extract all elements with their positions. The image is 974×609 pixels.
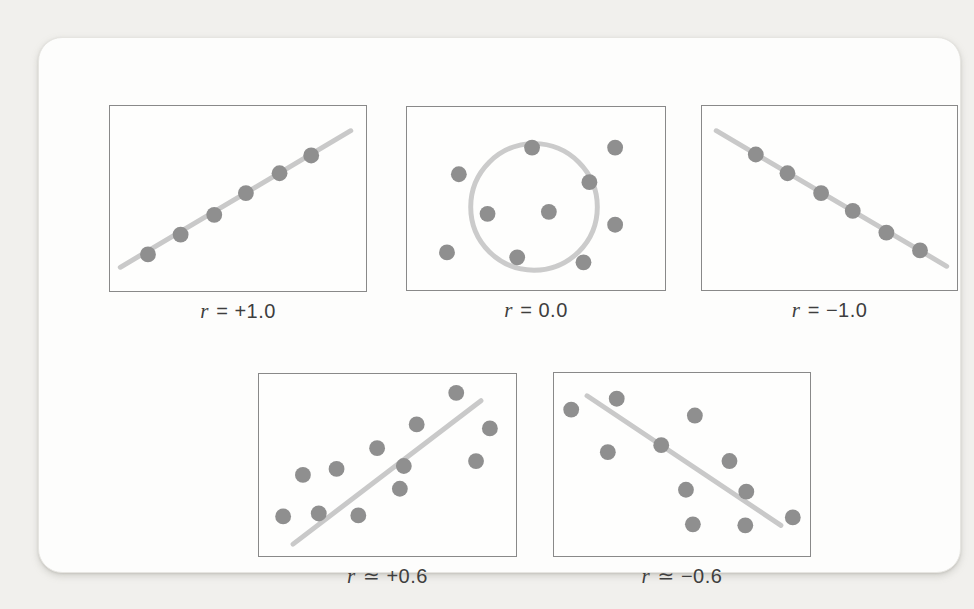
data-point — [369, 440, 385, 456]
correlation-label-r-negative-0-6: r≃ −0.6 — [553, 564, 811, 589]
data-point — [448, 385, 464, 401]
data-point — [392, 481, 408, 497]
data-point — [238, 185, 254, 201]
correlation-label-r-positive-0-6: r≃ +0.6 — [258, 564, 517, 589]
data-point — [311, 506, 327, 522]
r-value-text: = 0.0 — [520, 299, 568, 321]
scatter-plot-r-zero — [407, 107, 665, 290]
data-point — [607, 140, 623, 156]
data-point — [600, 444, 616, 460]
scatter-panel-r-negative-1 — [701, 105, 958, 291]
data-point — [272, 165, 288, 181]
scatter-plot-r-positive-1 — [110, 106, 366, 291]
data-point — [582, 174, 598, 190]
data-point — [468, 453, 484, 469]
data-point — [737, 517, 753, 533]
scatter-plot-r-negative-1 — [702, 106, 957, 290]
data-point — [173, 227, 189, 243]
data-point — [748, 147, 764, 163]
data-point — [206, 207, 222, 223]
r-value-text: ≃ −0.6 — [658, 565, 723, 587]
data-point — [509, 249, 525, 265]
data-point — [609, 391, 625, 407]
data-point — [722, 453, 738, 469]
trend-line — [587, 396, 781, 526]
r-symbol: r — [792, 298, 801, 322]
data-point — [409, 417, 425, 433]
data-point — [607, 217, 623, 233]
data-point — [813, 185, 829, 201]
data-point — [653, 437, 669, 453]
data-point — [576, 254, 592, 270]
correlation-label-r-negative-1: r= −1.0 — [701, 298, 958, 323]
data-point — [482, 420, 498, 436]
scatter-panel-r-negative-0-6 — [553, 372, 811, 557]
data-point — [480, 206, 496, 222]
r-value-text: = +1.0 — [216, 300, 276, 322]
data-point — [685, 516, 701, 532]
data-point — [780, 165, 796, 181]
scatter-plot-r-negative-0-6 — [554, 373, 810, 556]
correlation-label-r-zero: r= 0.0 — [406, 298, 666, 323]
data-point — [738, 484, 754, 500]
scatter-panel-r-positive-1 — [109, 105, 367, 292]
scatter-panel-r-zero — [406, 106, 666, 291]
data-point — [451, 166, 467, 182]
data-point — [303, 148, 319, 164]
r-symbol: r — [347, 564, 356, 588]
data-point — [140, 246, 156, 262]
data-point — [524, 140, 540, 156]
data-point — [785, 510, 801, 526]
data-point — [845, 203, 861, 219]
data-point — [912, 243, 928, 259]
data-point — [678, 482, 694, 498]
data-point — [350, 508, 366, 524]
r-symbol: r — [200, 299, 209, 323]
correlation-label-r-positive-1: r= +1.0 — [109, 299, 367, 324]
data-point — [563, 402, 579, 418]
figure-correlation-examples: r= +1.0 r= 0.0 r= −1.0 r≃ +0.6 r≃ −0.6 — [0, 0, 974, 609]
data-point — [878, 225, 894, 241]
r-symbol: r — [504, 298, 513, 322]
scatter-plot-r-positive-0-6 — [259, 374, 516, 556]
r-value-text: ≃ +0.6 — [363, 565, 428, 587]
data-point — [396, 458, 412, 474]
r-symbol: r — [642, 564, 651, 588]
data-point — [439, 244, 455, 260]
data-point — [295, 467, 311, 483]
data-point — [687, 408, 703, 424]
figure-card: r= +1.0 r= 0.0 r= −1.0 r≃ +0.6 r≃ −0.6 — [38, 37, 961, 573]
data-point — [329, 461, 345, 477]
scatter-panel-r-positive-0-6 — [258, 373, 517, 557]
trend-line — [293, 401, 481, 544]
data-point — [275, 509, 291, 525]
r-value-text: = −1.0 — [808, 299, 868, 321]
data-point — [541, 204, 557, 220]
